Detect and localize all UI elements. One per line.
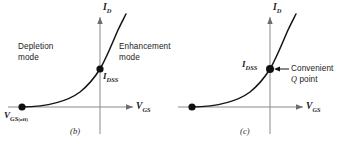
panel-b-caption: (b) <box>70 126 80 137</box>
x-axis-label-b: VGS <box>136 101 151 115</box>
enhancement-mode-line1: Enhancement <box>119 41 171 52</box>
depletion-mode-label: Depletion mode <box>18 41 54 63</box>
depletion-mode-line2: mode <box>18 52 54 63</box>
panel-c: ID VGS IDSS Convenient Q point (c) <box>170 0 340 144</box>
panel-b: ID VGS Depletion mode Enhancement mode I… <box>0 0 170 144</box>
cutoff-point <box>188 103 195 110</box>
idss-label-c: IDSS <box>242 59 257 73</box>
enhancement-mode-label: Enhancement mode <box>119 41 171 63</box>
figure-transfer-characteristics: ID VGS Depletion mode Enhancement mode I… <box>0 0 340 144</box>
depletion-mode-line1: Depletion <box>18 41 54 52</box>
enhancement-mode-line2: mode <box>119 52 171 63</box>
vgs-off-label: VGS(off) <box>4 110 28 125</box>
idss-label-b: IDSS <box>103 71 118 85</box>
q-point <box>266 65 274 73</box>
panel-c-caption: (c) <box>240 126 250 137</box>
q-point-rest: point <box>297 75 318 84</box>
y-axis-label-c: ID <box>273 2 281 16</box>
q-point-label: Convenient Q point <box>291 63 333 85</box>
y-axis-c <box>267 17 272 134</box>
q-point-arrow <box>274 67 289 72</box>
y-axis-b <box>97 17 102 134</box>
q-point-line2: Q point <box>291 74 333 85</box>
x-axis-label-c: VGS <box>306 101 321 115</box>
y-axis-label-b: ID <box>103 2 111 16</box>
q-point-line1: Convenient <box>291 63 333 74</box>
